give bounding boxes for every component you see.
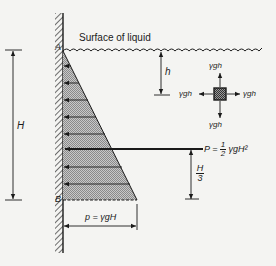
pressure-distribution-triangle xyxy=(63,51,137,200)
base-pressure-label: p = γgH xyxy=(85,213,116,222)
local-depth-label: h xyxy=(165,67,171,77)
height-denominator: 3 xyxy=(197,174,202,183)
height-numerator: H xyxy=(197,164,204,173)
fraction-numerator: 1 xyxy=(221,141,225,149)
height-fraction: H 3 xyxy=(196,164,204,183)
total-depth-label: H xyxy=(17,121,24,131)
point-a-label: A xyxy=(55,43,61,52)
surface-label: Surface of liquid xyxy=(79,33,151,43)
element-pressure-right: γgh xyxy=(243,90,256,98)
fraction-denominator: 2 xyxy=(221,150,225,158)
resultant-lhs: P = xyxy=(204,144,220,154)
fluid-element xyxy=(199,73,240,118)
resultant-rhs: γgH² xyxy=(228,144,247,154)
resultant-height-label: H 3 xyxy=(196,164,204,183)
liquid-surface xyxy=(63,48,262,51)
hydrostatic-diagram: Surface of liquid A B H h γgh γgh γgh γg… xyxy=(0,0,276,266)
resultant-fraction: 1 2 xyxy=(220,141,226,158)
point-b-label: B xyxy=(55,195,61,204)
element-pressure-top: γgh xyxy=(209,62,222,70)
resultant-force-label: P = 1 2 γgH² xyxy=(204,141,247,158)
element-pressure-bottom: γgh xyxy=(209,121,222,129)
element-pressure-left: γgh xyxy=(179,90,192,98)
